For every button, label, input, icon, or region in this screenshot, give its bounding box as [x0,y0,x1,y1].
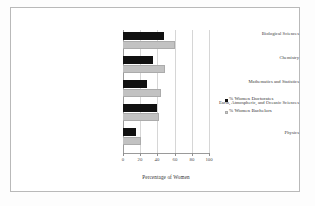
x-axis-title: Percentage of Women [123,174,209,180]
x-tick-0 [123,153,124,156]
bar-bachelors-physics [123,137,141,145]
gridline-100 [209,30,210,153]
x-axis-line [123,153,209,154]
legend-item-bachelors: % Women Bachelors [225,108,303,120]
bar-doctorates-mathematics-and-statistics [123,80,147,88]
x-tick-80 [192,153,193,156]
bar-bachelors-chemistry [123,65,165,73]
bar-doctorates-biological-sciences [123,32,164,40]
bar-bachelors-biological-sciences [123,41,175,49]
legend-swatch-icon-doctorates [225,99,228,102]
x-tick-label-40: 40 [147,157,167,162]
bar-doctorates-earth-atmospheric-oceanic-sciences [123,104,157,112]
bar-bachelors-earth-atmospheric-oceanic-sciences [123,113,159,121]
bar-doctorates-chemistry [123,56,153,64]
legend-swatch-icon-bachelors [225,111,228,114]
legend-item-doctorates: % Women Doctorates [225,96,303,108]
category-label-biological-sciences: Biological Sciences [203,31,299,37]
plot-area [123,30,209,153]
gridline-60 [175,30,176,153]
legend-label-doctorates: % Women Doctorates [229,96,274,101]
category-label-chemistry: Chemistry [203,55,299,61]
category-label-physics: Physics [203,130,299,136]
category-label-mathematics-and-statistics: Mathematics and Statistics [203,79,299,85]
x-tick-40 [157,153,158,156]
legend-label-bachelors: % Women Bachelors [229,108,272,113]
chart-page: Biological Sciences Chemistry Mathematic… [0,0,315,206]
x-tick-20 [140,153,141,156]
x-tick-label-100: 100 [199,157,219,162]
chart-legend: % Women Doctorates % Women Bachelors [225,96,303,120]
bar-bachelors-mathematics-and-statistics [123,89,161,97]
bar-doctorates-physics [123,128,136,136]
chart-frame: Biological Sciences Chemistry Mathematic… [10,7,300,192]
x-tick-100 [209,153,210,156]
gridline-80 [192,30,193,153]
x-tick-60 [175,153,176,156]
